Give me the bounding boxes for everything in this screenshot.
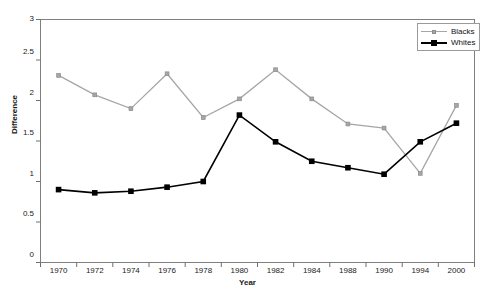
data-point-blacks-1972	[93, 93, 97, 97]
data-point-blacks-2000	[455, 103, 459, 107]
data-point-whites-1982	[273, 139, 279, 145]
x-tick-label-1972: 1972	[75, 266, 115, 275]
data-point-blacks-1990	[382, 126, 386, 130]
plot-frame	[41, 20, 475, 263]
x-tick-label-1988: 1988	[328, 266, 368, 275]
legend-label-blacks: Blacks	[451, 27, 475, 36]
legend-swatch-whites-icon	[421, 37, 447, 48]
data-point-blacks-1980	[238, 97, 242, 101]
data-point-whites-1988	[345, 165, 351, 171]
data-point-blacks-1978	[201, 116, 205, 120]
x-tick-label-1974: 1974	[111, 266, 151, 275]
data-point-whites-1978	[200, 179, 206, 185]
x-tick-label-1984: 1984	[292, 266, 332, 275]
x-axis-title: Year	[0, 278, 495, 287]
data-point-whites-1984	[309, 158, 315, 164]
data-point-blacks-1984	[310, 97, 314, 101]
legend-swatch-blacks-icon	[421, 26, 447, 37]
x-tick-label-1978: 1978	[183, 266, 223, 275]
data-point-whites-1994	[417, 139, 423, 145]
data-point-whites-1976	[164, 184, 170, 190]
x-tick-label-1976: 1976	[147, 266, 187, 275]
data-point-whites-2000	[454, 120, 460, 126]
data-point-blacks-1982	[274, 68, 278, 72]
data-point-whites-1990	[381, 171, 387, 177]
x-tick-label-1994: 1994	[400, 266, 440, 275]
x-tick-label-2000: 2000	[436, 266, 476, 275]
x-tick-label-1980: 1980	[219, 266, 259, 275]
data-point-whites-1972	[92, 190, 98, 196]
x-tick-label-1990: 1990	[364, 266, 404, 275]
data-point-whites-1974	[128, 188, 134, 194]
line-chart: Difference 0 0.5 1 1.5 2 2.5 3	[0, 0, 495, 298]
x-tick-label-1982: 1982	[256, 266, 296, 275]
data-point-blacks-1974	[129, 107, 133, 111]
data-point-blacks-1994	[418, 172, 422, 176]
data-point-blacks-1976	[165, 72, 169, 76]
data-point-whites-1970	[56, 187, 62, 193]
x-tick-label-1970: 1970	[39, 266, 79, 275]
chart-legend: Blacks Whites	[417, 23, 480, 51]
legend-item-blacks: Blacks	[421, 26, 475, 37]
y-axis-ticks	[36, 20, 41, 263]
legend-label-whites: Whites	[451, 38, 475, 47]
data-point-whites-1980	[237, 112, 243, 118]
data-point-blacks-1970	[57, 73, 61, 77]
data-point-blacks-1988	[346, 122, 350, 126]
legend-item-whites: Whites	[421, 37, 475, 48]
